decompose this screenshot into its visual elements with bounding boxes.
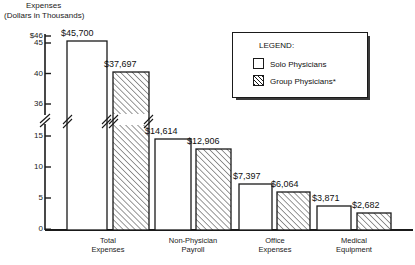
y-tick-label-5: 5 bbox=[5, 194, 43, 202]
y-tick-label-40: 40 bbox=[5, 70, 43, 78]
bar-group-non-physician-payroll bbox=[196, 149, 231, 230]
y-tick-label-0: 0 bbox=[5, 225, 43, 233]
legend-box: LEGEND: Solo Physicians Group Physicians… bbox=[232, 32, 368, 98]
value-label-group-non-physician-payroll: $12,906 bbox=[187, 137, 220, 146]
cat-line-2: Expenses bbox=[68, 245, 148, 254]
y-tick-label-45: 45 bbox=[5, 39, 43, 47]
cat-line-2: Payroll bbox=[153, 245, 233, 254]
bar-solo-non-physician-payroll bbox=[155, 139, 191, 230]
value-label-solo-non-physician-payroll: $14,614 bbox=[145, 127, 178, 136]
value-label-group-office-expenses: $6,064 bbox=[271, 180, 299, 189]
y-tick-label-15: 15 bbox=[5, 132, 43, 140]
cat-line-1: Office bbox=[235, 236, 315, 245]
legend-label-group-physicians: Group Physicians* bbox=[270, 78, 336, 86]
bar-group-office-expenses bbox=[277, 192, 310, 230]
bar-solo-office-expenses bbox=[239, 184, 272, 230]
white-square-icon bbox=[253, 58, 264, 69]
bar-solo-total-expenses bbox=[67, 41, 107, 230]
legend-heading: LEGEND: bbox=[259, 42, 294, 50]
legend-item-solo-physicians: Solo Physicians bbox=[253, 58, 363, 72]
cat-line-2: Equipment bbox=[314, 245, 394, 254]
x-category-label-office-expenses: Office Expenses bbox=[235, 236, 315, 254]
bar-group-total-expenses bbox=[113, 72, 149, 230]
bar-group-medical-equipment bbox=[357, 213, 391, 230]
y-tick-label-10: 10 bbox=[5, 163, 43, 171]
value-label-solo-medical-equipment: $3,871 bbox=[312, 194, 340, 203]
value-label-solo-total-expenses: $45,700 bbox=[61, 29, 94, 38]
value-label-group-medical-equipment: $2,682 bbox=[352, 201, 380, 210]
y-tick-label-36: 36 bbox=[5, 100, 43, 108]
expenses-bar-chart: Expenses (Dollars in Thousands) bbox=[0, 0, 415, 265]
bar-solo-medical-equipment bbox=[317, 206, 351, 230]
x-category-label-total-expenses: Total Expenses bbox=[68, 236, 148, 254]
cat-line-1: Total bbox=[68, 236, 148, 245]
legend-item-group-physicians: Group Physicians* bbox=[253, 75, 363, 89]
cat-line-2: Expenses bbox=[235, 245, 315, 254]
legend-label-solo-physicians: Solo Physicians bbox=[270, 61, 326, 69]
x-category-label-non-physician-payroll: Non-Physician Payroll bbox=[153, 236, 233, 254]
cat-line-1: Medical bbox=[314, 236, 394, 245]
x-category-label-medical-equipment: Medical Equipment bbox=[314, 236, 394, 254]
value-label-group-total-expenses: $37,697 bbox=[104, 60, 137, 69]
y-axis-ticks bbox=[45, 36, 51, 229]
hatched-square-icon bbox=[253, 75, 264, 86]
cat-line-1: Non-Physician bbox=[153, 236, 233, 245]
value-label-solo-office-expenses: $7,397 bbox=[233, 172, 261, 181]
